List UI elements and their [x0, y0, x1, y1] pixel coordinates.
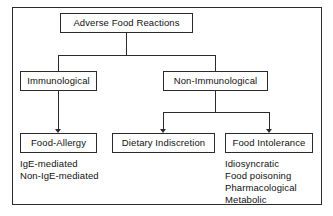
connector-to-non-immunological — [215, 55, 216, 71]
connector-to-immunological — [58, 55, 59, 71]
diagram-canvas: Adverse Food Reactions Immunological Non… — [0, 0, 333, 216]
node-food-allergy[interactable]: Food-Allergy — [20, 133, 97, 153]
connector-non-immunological-stem — [215, 91, 216, 112]
connector-level1-bar — [58, 55, 216, 56]
arrowhead-food-intolerance — [266, 129, 272, 133]
list-item: IgE-mediated — [20, 158, 99, 170]
list-item: Food poisoning — [225, 170, 297, 182]
connector-to-dietary-indiscretion — [163, 112, 164, 129]
list-item: Metabolic — [225, 194, 297, 206]
sublist-food-allergy: IgE-mediated Non-IgE-mediated — [20, 158, 99, 182]
node-adverse-food-reactions[interactable]: Adverse Food Reactions — [60, 13, 193, 33]
arrowhead-food-allergy — [55, 129, 61, 133]
node-non-immunological[interactable]: Non-Immunological — [163, 71, 268, 91]
list-item: Pharmacological — [225, 182, 297, 194]
connector-to-food-intolerance — [269, 112, 270, 129]
connector-root-stem — [126, 33, 127, 55]
connector-level2-bar — [163, 112, 269, 113]
sublist-food-intolerance: Idiosyncratic Food poisoning Pharmacolog… — [225, 158, 297, 206]
node-dietary-indiscretion[interactable]: Dietary Indiscretion — [112, 133, 215, 153]
list-item: Idiosyncratic — [225, 158, 297, 170]
arrowhead-dietary-indiscretion — [160, 129, 166, 133]
connector-immunological-to-food-allergy — [58, 91, 59, 129]
list-item: Non-IgE-mediated — [20, 170, 99, 182]
node-immunological[interactable]: Immunological — [20, 71, 97, 91]
node-food-intolerance[interactable]: Food Intolerance — [225, 133, 313, 153]
